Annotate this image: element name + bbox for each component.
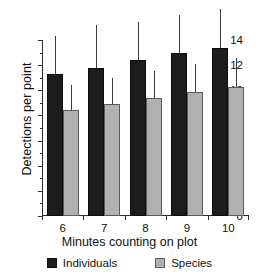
- y-axis-minor-tick: [40, 153, 43, 154]
- bar-species-9: [187, 92, 203, 216]
- error-bar-species-8: [154, 71, 155, 97]
- y-axis-line: [42, 40, 43, 216]
- legend-item-individuals: Individuals: [47, 257, 117, 269]
- y-axis-tick: [38, 40, 42, 41]
- y-axis-tick-label: 14: [230, 34, 243, 46]
- x-axis-tick-label: 10: [222, 222, 235, 234]
- y-axis-minor-tick: [40, 78, 43, 79]
- error-bar-species-9: [195, 64, 196, 92]
- x-axis-tick: [208, 216, 209, 220]
- y-axis-title: Detections per point: [20, 29, 34, 209]
- legend-label: Species: [171, 257, 212, 269]
- y-axis-minor-tick: [40, 53, 43, 54]
- plot-area: 02468101214678910: [42, 40, 249, 216]
- bar-chart-figure: Detections per point 02468101214678910 M…: [0, 0, 259, 278]
- error-bar-species-7: [112, 78, 113, 104]
- legend-item-species: Species: [155, 257, 212, 269]
- error-bar-individuals-9: [179, 15, 180, 53]
- legend-swatch-individuals: [47, 258, 57, 268]
- y-axis-tick: [38, 166, 42, 167]
- error-bar-species-6: [71, 85, 72, 110]
- y-axis-minor-tick: [40, 178, 43, 179]
- bar-species-7: [104, 104, 120, 216]
- y-axis-tick: [38, 115, 42, 116]
- y-axis-tick: [38, 90, 42, 91]
- y-axis-tick: [38, 141, 42, 142]
- x-axis-tick-label: 8: [142, 222, 148, 234]
- bar-species-8: [146, 98, 162, 216]
- bar-individuals-9: [171, 53, 187, 216]
- error-bar-species-10: [236, 58, 237, 88]
- x-axis-tick-label: 7: [101, 222, 107, 234]
- y-axis-minor-tick: [40, 103, 43, 104]
- legend-label: Individuals: [63, 257, 117, 269]
- bar-individuals-6: [47, 74, 63, 216]
- chart-legend: IndividualsSpecies: [0, 257, 259, 269]
- x-axis-title: Minutes counting on plot: [0, 235, 259, 249]
- x-axis-tick-label: 6: [59, 222, 65, 234]
- y-axis-tick: [38, 65, 42, 66]
- bar-individuals-8: [130, 60, 146, 216]
- error-bar-individuals-7: [96, 25, 97, 68]
- bar-species-6: [63, 110, 79, 216]
- y-axis-minor-tick: [40, 203, 43, 204]
- error-bar-individuals-8: [138, 22, 139, 60]
- x-axis-tick: [83, 216, 84, 220]
- error-bar-individuals-10: [220, 9, 221, 48]
- bar-individuals-10: [212, 48, 228, 216]
- bar-individuals-7: [88, 68, 104, 216]
- legend-swatch-species: [155, 258, 165, 268]
- y-axis-tick: [38, 191, 42, 192]
- x-axis-tick-label: 9: [184, 222, 190, 234]
- x-axis-tick: [125, 216, 126, 220]
- y-axis-minor-tick: [40, 128, 43, 129]
- x-axis-tick: [248, 216, 249, 220]
- error-bar-individuals-6: [55, 36, 56, 74]
- bar-species-10: [228, 87, 244, 216]
- x-axis-tick: [42, 216, 43, 220]
- x-axis-tick: [166, 216, 167, 220]
